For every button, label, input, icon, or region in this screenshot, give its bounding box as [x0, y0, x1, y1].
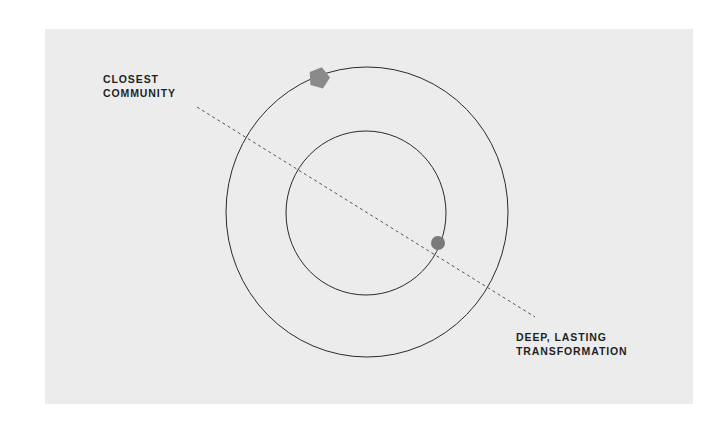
label-closest-line2: COMMUNITY: [103, 86, 176, 100]
concentric-circles-diagram: [0, 0, 718, 422]
label-closest-line1: CLOSEST: [103, 72, 176, 86]
label-deep-lasting-transformation: DEEP, LASTING TRANSFORMATION: [516, 330, 628, 358]
label-closest-community: CLOSEST COMMUNITY: [103, 72, 176, 100]
outer-circle: [226, 67, 508, 357]
pentagon-marker-icon: [307, 65, 332, 90]
dashed-axis-line: [197, 107, 535, 317]
label-deep-line1: DEEP, LASTING: [516, 330, 628, 344]
dot-marker-icon: [431, 236, 445, 250]
label-deep-line2: TRANSFORMATION: [516, 344, 628, 358]
inner-circle: [286, 131, 446, 295]
